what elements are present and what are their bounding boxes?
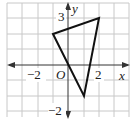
coordinate-plane: 3 y −2 O 2 x −2	[0, 0, 134, 123]
y-tick-3: 3	[58, 9, 65, 24]
origin-label: O	[56, 67, 66, 82]
x-axis-label: x	[118, 68, 125, 83]
x-tick-2: 2	[95, 67, 102, 82]
y-tick-neg-2: −2	[48, 103, 62, 118]
triangle	[53, 18, 99, 96]
y-axis-label: y	[70, 1, 78, 16]
x-axis-left-arrow-icon	[7, 62, 15, 68]
x-tick-neg-2: −2	[27, 67, 41, 82]
